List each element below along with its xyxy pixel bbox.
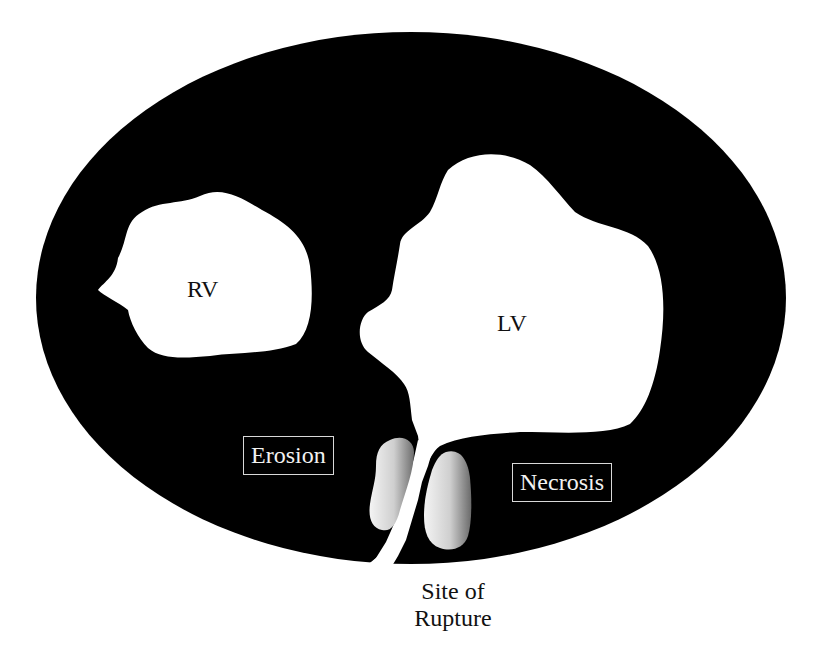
necrosis-label-box: Necrosis bbox=[512, 463, 612, 502]
rupture-site-caption: Site of Rupture bbox=[383, 578, 523, 632]
rupture-caption-line1: Site of bbox=[383, 578, 523, 605]
rv-label: RV bbox=[187, 277, 218, 301]
lv-label: LV bbox=[497, 311, 527, 335]
heart-cross-section bbox=[0, 0, 814, 671]
rupture-caption-line2: Rupture bbox=[383, 605, 523, 632]
erosion-label-box: Erosion bbox=[243, 436, 334, 475]
